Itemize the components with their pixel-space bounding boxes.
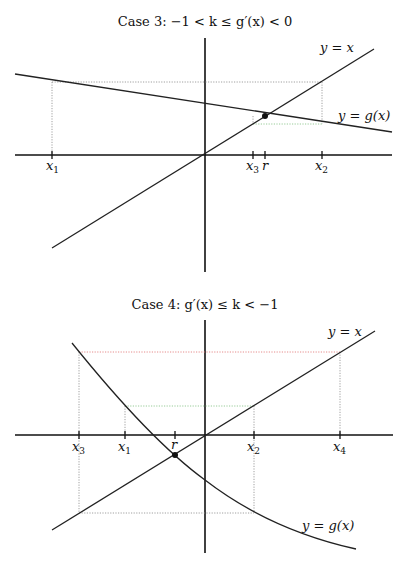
- case4-g-label: y = g(x): [301, 518, 354, 533]
- case3-diagram: Case 3: −1 < k ≤ g′(x) < 0 y = x y = g(x…: [15, 14, 392, 272]
- case4-tick-x1: x1: [118, 439, 131, 456]
- case4-tick-x4: x4: [333, 439, 346, 456]
- case4-fixed-point: [172, 452, 178, 458]
- case4-tick-x2: x2: [247, 439, 260, 456]
- case4-diagram: Case 4: g′(x) ≤ k < −1 y = x y = g(x) x3…: [15, 297, 393, 553]
- case3-identity-line: [52, 49, 374, 248]
- case3-identity-label: y = x: [319, 40, 355, 55]
- figure-canvas: Case 3: −1 < k ≤ g′(x) < 0 y = x y = g(x…: [0, 0, 411, 566]
- case3-tick-r: r: [262, 158, 269, 173]
- case3-g-label: y = g(x): [337, 108, 390, 123]
- case3-tick-x2: x2: [315, 158, 328, 175]
- case4-identity-line: [52, 331, 375, 530]
- case4-tick-x3: x3: [72, 439, 85, 456]
- case4-tick-r: r: [171, 437, 178, 452]
- case3-tick-x1: x1: [46, 158, 59, 175]
- case3-tick-x3: x3: [246, 158, 259, 175]
- case4-title: Case 4: g′(x) ≤ k < −1: [131, 297, 278, 312]
- case4-identity-label: y = x: [327, 324, 363, 339]
- case3-g-curve: [15, 74, 392, 132]
- case3-title: Case 3: −1 < k ≤ g′(x) < 0: [118, 14, 293, 29]
- case3-fixed-point: [262, 113, 268, 119]
